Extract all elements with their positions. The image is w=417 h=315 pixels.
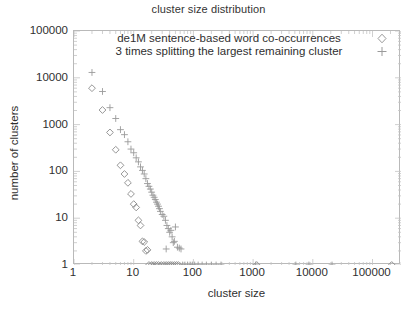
data-point-plus <box>162 217 169 224</box>
data-point-plus <box>160 213 167 220</box>
data-point-diamond <box>253 262 260 265</box>
axis-ticks <box>74 31 401 265</box>
data-point-diamond <box>388 262 395 265</box>
legend-marker-plus-icon <box>371 45 393 58</box>
x-tick-label: 1000 <box>239 266 265 278</box>
data-point-plus <box>107 104 114 111</box>
series-plus <box>89 69 336 265</box>
data-point-plus <box>159 211 166 218</box>
data-point-plus <box>208 262 215 265</box>
data-point-plus <box>170 239 177 246</box>
y-tick-label: 10000 <box>6 71 68 83</box>
data-point-plus <box>163 246 170 253</box>
legend-label-1: 3 times splitting the largest remaining … <box>88 45 370 57</box>
data-point-plus <box>89 69 96 76</box>
legend-entry-0: de1M sentence-based word co-occurrences <box>88 32 393 45</box>
data-point-plus <box>112 115 119 122</box>
data-point-plus <box>117 126 124 133</box>
legend-marker-diamond-icon <box>371 32 393 45</box>
plot-area <box>73 30 400 264</box>
series-diamond <box>89 85 396 265</box>
data-point-diamond <box>99 107 106 114</box>
data-point-diamond <box>128 191 135 198</box>
data-point-plus <box>195 262 202 265</box>
data-point-plus <box>178 246 185 253</box>
y-tick-label: 100000 <box>6 24 68 36</box>
data-point-plus <box>176 245 183 252</box>
data-point-plus <box>172 224 179 231</box>
x-tick-label: 100000 <box>352 266 390 278</box>
data-point-plus <box>174 244 181 251</box>
data-point-plus <box>306 262 313 265</box>
y-axis-title: number of clusters <box>8 83 20 223</box>
chart-legend: de1M sentence-based word co-occurrences … <box>88 31 393 57</box>
data-point-diamond <box>89 85 96 92</box>
y-tick-label: 1 <box>6 258 68 270</box>
data-point-plus <box>203 262 210 265</box>
data-point-plus <box>329 262 336 265</box>
data-point-plus <box>139 167 146 174</box>
data-point-diamond <box>125 179 132 186</box>
data-point-plus <box>99 88 106 95</box>
plot-canvas <box>74 31 401 265</box>
data-point-plus <box>164 222 171 229</box>
data-point-plus <box>199 262 206 265</box>
data-point-plus <box>218 262 225 265</box>
data-point-diamond <box>117 162 124 169</box>
data-point-plus <box>141 171 148 178</box>
chart-screenshot: cluster size distribution 11010010001000… <box>0 0 417 315</box>
data-point-plus <box>121 131 128 138</box>
x-axis-title: cluster size <box>73 287 400 299</box>
x-tick-label: 10 <box>126 266 139 278</box>
legend-entry-1: 3 times splitting the largest remaining … <box>88 45 393 58</box>
legend-label-0: de1M sentence-based word co-occurrences <box>88 32 370 44</box>
x-tick-label: 10000 <box>296 266 328 278</box>
data-point-diamond <box>107 129 114 136</box>
data-point-plus <box>213 262 220 265</box>
data-point-plus <box>125 138 132 145</box>
data-point-diamond <box>121 171 128 178</box>
data-point-diamond <box>112 146 119 153</box>
data-point-plus <box>292 262 299 265</box>
x-tick-label: 100 <box>183 266 202 278</box>
x-tick-label: 1 <box>70 266 76 278</box>
data-point-plus <box>142 175 149 182</box>
